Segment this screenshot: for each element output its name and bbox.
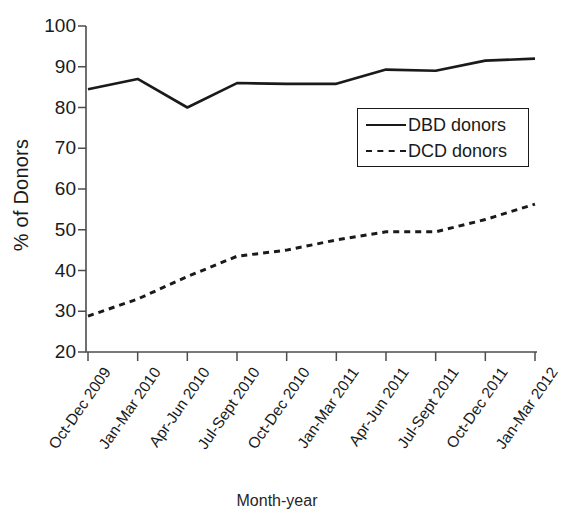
legend-item-dbd: DBD donors bbox=[366, 112, 506, 138]
y-tick-label: 90 bbox=[24, 57, 76, 76]
y-tick-label: 50 bbox=[24, 220, 76, 239]
y-tick-label: 30 bbox=[24, 301, 76, 320]
y-tick-label: 60 bbox=[24, 179, 76, 198]
y-tick-label: 20 bbox=[24, 342, 76, 361]
y-tick-label: 70 bbox=[24, 138, 76, 157]
y-tick-label: 40 bbox=[24, 261, 76, 280]
legend-dashed-line-icon bbox=[366, 145, 406, 157]
legend-label-dbd: DBD donors bbox=[408, 115, 506, 136]
legend-label-dcd: DCD donors bbox=[408, 141, 507, 162]
legend-item-dcd: DCD donors bbox=[366, 138, 507, 164]
chart-legend: DBD donors DCD donors bbox=[357, 108, 529, 167]
series-line-dbd bbox=[88, 59, 535, 108]
y-tick-label: 80 bbox=[24, 98, 76, 117]
axis-spine bbox=[86, 26, 537, 352]
series-line-dcd bbox=[88, 204, 535, 316]
legend-solid-line-icon bbox=[366, 119, 406, 131]
y-tick-label: 100 bbox=[24, 16, 76, 35]
